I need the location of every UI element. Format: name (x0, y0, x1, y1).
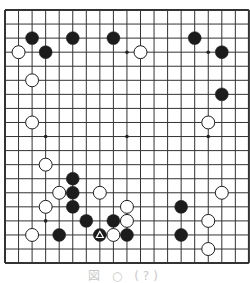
go-board (0, 0, 250, 265)
white-stone (134, 46, 147, 59)
black-stone (39, 46, 52, 59)
star-point (206, 50, 210, 54)
black-stone (66, 186, 79, 199)
white-stone (120, 200, 133, 213)
black-stone (107, 32, 120, 45)
white-stone (26, 228, 39, 241)
white-stone (202, 116, 215, 129)
white-stone (39, 158, 52, 171)
black-stone (188, 32, 201, 45)
star-point (125, 135, 129, 139)
star-point (125, 50, 129, 54)
white-stone (107, 228, 120, 241)
white-stone (12, 46, 25, 59)
black-stone (26, 32, 39, 45)
black-stone (175, 228, 188, 241)
white-stone (120, 214, 133, 227)
black-stone (66, 200, 79, 213)
black-stone (215, 46, 228, 59)
white-stone (215, 186, 228, 199)
star-point (44, 219, 48, 223)
black-stone (93, 228, 106, 241)
black-stone (66, 172, 79, 185)
diagram-caption: 図 ○ (?) (0, 266, 250, 283)
white-stone (202, 214, 215, 227)
black-stone (107, 214, 120, 227)
white-stone (26, 116, 39, 129)
white-stone (39, 200, 52, 213)
black-stone (53, 228, 66, 241)
white-stone (93, 186, 106, 199)
star-point (206, 135, 210, 139)
star-point (44, 135, 48, 139)
white-stone (202, 243, 215, 256)
black-stone (80, 214, 93, 227)
black-stone (175, 200, 188, 213)
black-stone (66, 32, 79, 45)
black-stone (215, 88, 228, 101)
black-stone (120, 228, 133, 241)
white-stone (26, 74, 39, 87)
white-stone (53, 186, 66, 199)
